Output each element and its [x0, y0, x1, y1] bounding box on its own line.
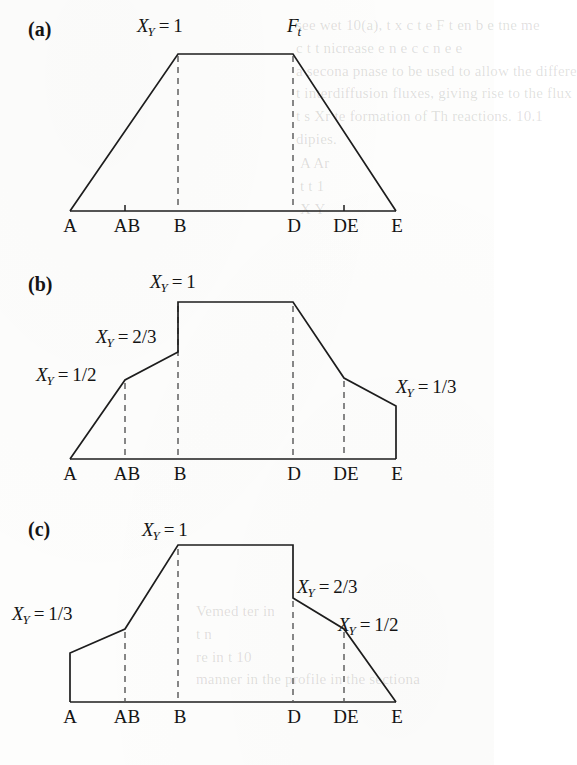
panel-b-label-xy-1-3-relation: =: [418, 376, 429, 397]
panel-c-label-xy-1-3: XY = 1/3: [12, 604, 72, 626]
panel-b-axis-label-a: A: [63, 464, 77, 483]
panel-b-label-xy-1-value: 1: [186, 271, 196, 292]
panel-a-label-ft-symbol: F: [287, 15, 299, 36]
panel-c-label-xy-2-3-symbol: X: [297, 576, 309, 597]
panel-c-label-xy-1-2-subscript: Y: [349, 623, 356, 638]
panel-b-label-xy-1-3-subscript: Y: [407, 385, 414, 400]
panel-c-label-xy-1-subscript: Y: [153, 528, 160, 543]
panel-a-axis-label-e: E: [391, 216, 403, 235]
panel-c-label-xy-1-3-symbol: X: [12, 603, 24, 624]
panel-c-label-xy-2-3: XY = 2/3: [297, 577, 357, 599]
panel-b-axis-label-ab: AB: [114, 464, 140, 483]
panel-a-label-xy-1-subscript: Y: [148, 24, 155, 39]
panel-c-label-xy-1: XY = 1: [142, 520, 188, 542]
panel-b-label-xy-1-2-subscript: Y: [47, 373, 54, 388]
panel-c-label-xy-1-2-relation: =: [360, 614, 371, 635]
panel-a-axis-label-b: B: [174, 216, 187, 235]
panel-b-label-xy-2-3-value: 2/3: [132, 326, 156, 347]
panel-a-axis-label-d: D: [287, 216, 301, 235]
panel-c-axis-label-ab: AB: [114, 707, 140, 726]
panel-b-label-xy-1-relation: =: [172, 271, 183, 292]
panel-b-label-xy-1-2-relation: =: [58, 364, 69, 385]
panel-b-label-xy-1-2-symbol: X: [36, 364, 48, 385]
panel-b-axis-label-de: DE: [333, 464, 358, 483]
panel-b-label-xy-1-symbol: X: [150, 271, 162, 292]
panel-c: (c) XY = 1 XY = 2/3 XY = 1/2 XY = 1/3 A …: [0, 500, 494, 765]
panel-c-label-xy-1-2-symbol: X: [338, 614, 350, 635]
panel-c-label-xy-1-3-subscript: Y: [23, 612, 30, 627]
panel-a-axis-label-a: A: [63, 216, 77, 235]
panel-b-label-xy-1: XY = 1: [150, 272, 196, 294]
panel-a-axis-label-ab: AB: [114, 216, 140, 235]
panel-c-label-xy-2-3-relation: =: [319, 576, 330, 597]
panel-c-label-xy-1-3-value: 1/3: [48, 603, 72, 624]
panel-b-label-xy-1-2-value: 1/2: [72, 364, 96, 385]
panel-c-axis-label-e: E: [391, 707, 403, 726]
panel-c-label-xy-1-value: 1: [178, 519, 188, 540]
panel-c-label-xy-1-2-value: 1/2: [374, 614, 398, 635]
panel-c-label-xy-1-3-relation: =: [34, 603, 45, 624]
panel-b-label-xy-2-3: XY = 2/3: [96, 327, 156, 349]
panel-a: (a) XY = 1 Ft A AB B D DE E: [0, 0, 494, 255]
panel-c-axis-label-a: A: [63, 707, 77, 726]
panel-b-label-xy-1-3: XY = 1/3: [396, 377, 456, 399]
panel-b-label-xy-2-3-subscript: Y: [107, 335, 114, 350]
panel-b-label-xy-1-2: XY = 1/2: [36, 365, 96, 387]
panel-a-profile-curve: [70, 54, 396, 211]
panel-a-label-xy-1-symbol: X: [137, 15, 149, 36]
panel-a-axis-label-de: DE: [333, 216, 358, 235]
panel-b-axis-label-b: B: [174, 464, 187, 483]
panel-a-tag: (a): [28, 18, 51, 41]
panel-c-label-xy-2-3-subscript: Y: [308, 585, 315, 600]
panel-b-label-xy-1-subscript: Y: [161, 280, 168, 295]
panel-b-label-xy-2-3-symbol: X: [96, 326, 108, 347]
panel-a-label-xy-1: XY = 1: [137, 16, 183, 38]
panel-a-label-xy-1-value: 1: [173, 15, 183, 36]
panel-b-tag: (b): [28, 273, 52, 296]
panel-b-label-xy-1-3-symbol: X: [396, 376, 408, 397]
panel-b: (b) XY = 1 XY = 2/3 XY = 1/2 XY = 1/3 A …: [0, 255, 494, 500]
panel-b-axis-label-e: E: [391, 464, 403, 483]
panel-c-label-xy-1-2: XY = 1/2: [338, 615, 398, 637]
panel-a-label-ft-subscript: t: [298, 24, 302, 39]
panel-b-label-xy-2-3-relation: =: [118, 326, 129, 347]
panel-c-axis-label-de: DE: [333, 707, 358, 726]
panel-c-tag: (c): [28, 518, 50, 541]
panel-a-label-xy-1-relation: =: [159, 15, 170, 36]
panel-c-label-xy-2-3-value: 2/3: [333, 576, 357, 597]
panel-c-label-xy-1-symbol: X: [142, 519, 154, 540]
panel-b-label-xy-1-3-value: 1/3: [432, 376, 456, 397]
panel-c-label-xy-1-relation: =: [164, 519, 175, 540]
panel-c-axis-label-d: D: [287, 707, 301, 726]
panel-c-axis-label-b: B: [174, 707, 187, 726]
panel-a-label-ft: Ft: [287, 16, 301, 38]
panel-b-axis-label-d: D: [287, 464, 301, 483]
